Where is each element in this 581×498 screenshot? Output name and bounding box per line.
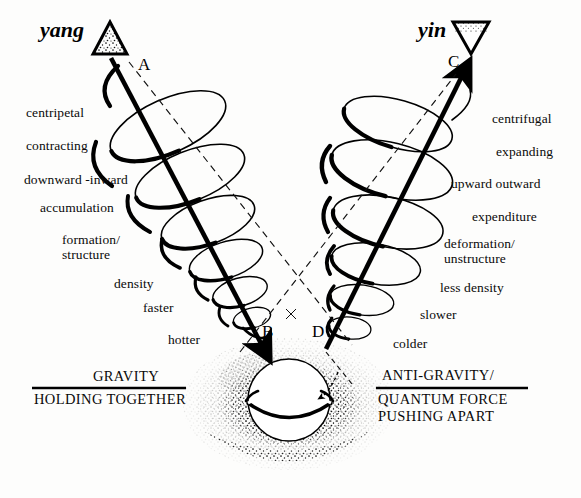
right-label-expenditure: expenditure — [472, 210, 537, 225]
diagram-canvas: yang yin A B C D centripetal contracting… — [0, 0, 581, 498]
up-triangle-icon — [93, 22, 127, 54]
yang-pole-label: yang — [40, 17, 84, 43]
left-label-downward-inward: downward -inward — [24, 173, 128, 188]
right-label-centrifugal: centrifugal — [492, 112, 552, 127]
node-label-a: A — [138, 55, 150, 75]
right-label-less-density: less density — [440, 281, 504, 296]
node-label-d: D — [312, 322, 324, 342]
left-label-faster: faster — [143, 301, 174, 316]
right-label-slower: slower — [420, 308, 457, 323]
left-label-accumulation: accumulation — [40, 201, 114, 216]
right-label-upward-outward: upward outward — [451, 177, 541, 192]
right-label-deformation-unstructure: deformation/ unstructure — [444, 236, 515, 266]
yin-pole-label: yin — [418, 17, 446, 43]
quantum-force-label: QUANTUM FORCE PUSHING APART — [378, 391, 508, 424]
left-label-density: density — [114, 277, 154, 292]
anti-gravity-label: ANTI-GRAVITY/ — [382, 367, 494, 384]
holding-together-label: HOLDING TOGETHER — [32, 391, 188, 408]
left-label-hotter: hotter — [168, 333, 200, 348]
node-label-b: B — [262, 322, 273, 342]
right-label-colder: colder — [393, 337, 427, 352]
left-label-contracting: contracting — [26, 139, 88, 154]
left-label-formation-structure: formation/ structure — [62, 232, 120, 262]
gravity-label: GRAVITY — [56, 368, 196, 385]
down-triangle-icon — [453, 22, 489, 54]
right-label-expanding: expanding — [496, 145, 553, 160]
left-label-centripetal: centripetal — [26, 106, 84, 121]
contracting-helix-icon — [93, 66, 273, 338]
axis-cross-tick-icon — [286, 309, 296, 319]
expanding-helix-icon — [322, 85, 471, 341]
node-label-c: C — [448, 52, 459, 72]
